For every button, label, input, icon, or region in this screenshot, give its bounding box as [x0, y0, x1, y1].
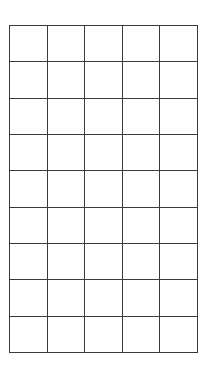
- grid-cell: [10, 26, 48, 62]
- grid-cell: [10, 135, 48, 171]
- grid-cell: [123, 135, 161, 171]
- grid-cell: [10, 99, 48, 135]
- grid-cell: [160, 62, 198, 98]
- grid-cell: [160, 26, 198, 62]
- grid-cell: [85, 171, 123, 207]
- grid-cell: [48, 135, 86, 171]
- grid-cell: [85, 62, 123, 98]
- grid-cell: [85, 135, 123, 171]
- grid-cell: [160, 280, 198, 316]
- grid-cell: [160, 208, 198, 244]
- grid-cell: [48, 99, 86, 135]
- grid-cell: [123, 171, 161, 207]
- grid-cell: [85, 280, 123, 316]
- grid-cell: [10, 208, 48, 244]
- grid-cell: [48, 62, 86, 98]
- canvas: [0, 0, 215, 371]
- grid-cell: [48, 280, 86, 316]
- grid-cell: [160, 317, 198, 353]
- grid-cell: [48, 317, 86, 353]
- grid-cell: [160, 171, 198, 207]
- grid-cell: [85, 99, 123, 135]
- grid-cell: [123, 317, 161, 353]
- grid-cell: [123, 99, 161, 135]
- grid-cell: [10, 317, 48, 353]
- grid-cell: [48, 244, 86, 280]
- empty-grid: [9, 25, 198, 353]
- grid-cell: [123, 208, 161, 244]
- grid-cell: [10, 280, 48, 316]
- grid-cell: [85, 244, 123, 280]
- grid-cell: [123, 280, 161, 316]
- grid-cell: [85, 26, 123, 62]
- grid-cell: [123, 62, 161, 98]
- grid-cell: [123, 244, 161, 280]
- grid-cell: [123, 26, 161, 62]
- grid-cell: [160, 99, 198, 135]
- grid-cell: [10, 244, 48, 280]
- grid-cell: [85, 208, 123, 244]
- grid-cell: [10, 62, 48, 98]
- grid-cell: [48, 208, 86, 244]
- grid-cell: [48, 26, 86, 62]
- grid-cell: [10, 171, 48, 207]
- grid-cell: [160, 135, 198, 171]
- grid-cell: [48, 171, 86, 207]
- grid-cell: [85, 317, 123, 353]
- grid-cell: [160, 244, 198, 280]
